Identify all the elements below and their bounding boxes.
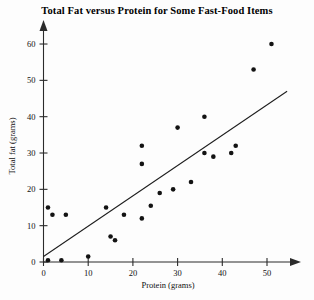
data-point (108, 234, 113, 239)
x-tick-label: 40 (218, 268, 227, 278)
data-point (229, 151, 234, 156)
data-point (59, 258, 64, 263)
data-point (171, 187, 176, 192)
data-point (46, 258, 51, 263)
y-tick-label: 60 (27, 39, 36, 49)
data-point (140, 216, 145, 221)
y-tick-label: 0 (31, 257, 35, 267)
data-point (202, 151, 207, 156)
trend-line (44, 91, 288, 256)
data-point (233, 143, 238, 148)
y-tick-label: 20 (27, 184, 36, 194)
y-tick-label: 40 (27, 112, 36, 122)
chart-figure: Total Fat versus Protein for Some Fast-F… (0, 0, 314, 300)
axes (40, 20, 302, 266)
x-tick-label: 0 (41, 268, 45, 278)
x-axis-arrow (290, 258, 301, 266)
x-tick-label: 50 (263, 268, 272, 278)
data-point (202, 114, 207, 119)
x-axis-title: Protein (grams) (141, 280, 194, 290)
y-axis-arrow (40, 20, 48, 31)
x-tick-label: 30 (173, 268, 182, 278)
data-point (175, 125, 180, 130)
data-point (104, 205, 109, 210)
data-point (251, 67, 256, 72)
data-points (46, 42, 274, 263)
data-point (189, 180, 194, 185)
y-axis-title: Total fat (grams) (7, 117, 17, 174)
data-point (157, 191, 162, 196)
data-point (211, 154, 216, 159)
data-point (122, 212, 127, 217)
x-tick-label: 10 (84, 268, 93, 278)
scatter-plot: 0102030405060 01020304050 Protein (grams… (0, 0, 314, 300)
x-tick-label: 20 (129, 268, 138, 278)
data-point (269, 42, 274, 47)
data-point (46, 205, 51, 210)
data-point (148, 203, 153, 208)
x-axis-ticks: 01020304050 (41, 258, 271, 278)
data-point (140, 143, 145, 148)
data-point (64, 212, 69, 217)
data-point (140, 162, 145, 167)
data-point (86, 254, 91, 259)
data-point (50, 212, 55, 217)
y-tick-label: 30 (27, 148, 36, 158)
data-point (113, 238, 118, 243)
y-tick-label: 50 (27, 75, 36, 85)
y-tick-label: 10 (27, 221, 36, 231)
y-axis-ticks: 0102030405060 (27, 39, 48, 267)
